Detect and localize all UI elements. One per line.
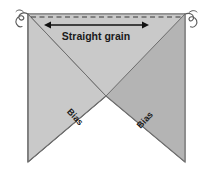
thread-right-icon [185, 11, 197, 28]
fabric-grain-diagram: Straight grain Bias Bias [0, 0, 205, 186]
straight-grain-label: Straight grain [62, 30, 130, 42]
fabric-diagram-svg: Straight grain Bias Bias [0, 0, 205, 186]
thread-left-icon [16, 10, 28, 27]
